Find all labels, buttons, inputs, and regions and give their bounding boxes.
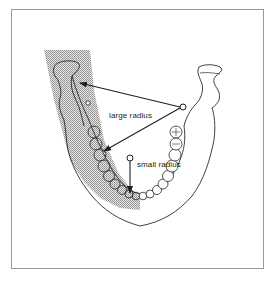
ramus-marker bbox=[86, 101, 90, 105]
small-radius-center bbox=[127, 155, 133, 161]
mandible-diagram bbox=[0, 0, 280, 282]
small-radius-label: small radius bbox=[137, 160, 181, 169]
large-radius-center bbox=[180, 104, 186, 110]
large-radius-label: large radius bbox=[109, 111, 152, 120]
